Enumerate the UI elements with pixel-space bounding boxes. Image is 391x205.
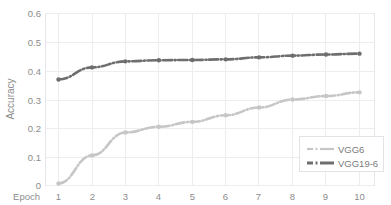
legend-label-vgg19-6: VGG19-6 bbox=[338, 158, 378, 169]
x-tick-label-4: 4 bbox=[156, 191, 161, 202]
x-tick-label-5: 5 bbox=[190, 191, 195, 202]
x-tick-label-3: 3 bbox=[123, 191, 128, 202]
y-tick-label-0.3: 0.3 bbox=[28, 95, 41, 106]
y-tick-label-0.4: 0.4 bbox=[28, 66, 41, 77]
x-tick-label-2: 2 bbox=[90, 191, 95, 202]
data-point bbox=[224, 57, 228, 61]
data-point bbox=[90, 65, 94, 69]
data-point bbox=[190, 120, 194, 124]
data-point bbox=[56, 181, 60, 185]
data-point bbox=[90, 153, 94, 157]
data-point bbox=[357, 90, 361, 94]
data-point bbox=[123, 130, 127, 134]
y-tick-label-0.2: 0.2 bbox=[28, 123, 41, 134]
data-point bbox=[290, 53, 294, 57]
data-point bbox=[157, 125, 161, 129]
data-point bbox=[224, 113, 228, 117]
series-vgg19-6 bbox=[56, 51, 361, 81]
x-axis-title: Epoch bbox=[13, 191, 40, 202]
x-tick-label-1: 1 bbox=[56, 191, 61, 202]
y-tick-label-0: 0 bbox=[36, 180, 41, 191]
chart-canvas: Accuracy 0.6 0.5 0.4 0.3 0.2 0.1 0 Epoch… bbox=[0, 0, 391, 205]
x-tick-label-9: 9 bbox=[323, 191, 328, 202]
data-point bbox=[324, 94, 328, 98]
legend: VGG6 VGG19-6 bbox=[300, 137, 384, 172]
accuracy-vs-epoch-chart: Accuracy 0.6 0.5 0.4 0.3 0.2 0.1 0 Epoch… bbox=[0, 0, 391, 205]
data-point bbox=[324, 52, 328, 56]
x-tick-label-6: 6 bbox=[223, 191, 228, 202]
x-tick-label-10: 10 bbox=[354, 191, 365, 202]
data-point bbox=[357, 51, 361, 55]
data-point bbox=[257, 55, 261, 59]
y-axis-title: Accuracy bbox=[5, 78, 16, 119]
data-point bbox=[56, 77, 60, 81]
x-tick-label-7: 7 bbox=[256, 191, 261, 202]
y-tick-label-0.5: 0.5 bbox=[28, 37, 41, 48]
data-point bbox=[257, 105, 261, 109]
y-axis-tick-labels: 0.6 0.5 0.4 0.3 0.2 0.1 0 bbox=[28, 8, 41, 191]
series-line-vgg19-6 bbox=[59, 54, 360, 80]
legend-label-vgg6: VGG6 bbox=[338, 144, 364, 155]
y-tick-label-0.6: 0.6 bbox=[28, 8, 41, 19]
data-point bbox=[290, 97, 294, 101]
x-tick-label-8: 8 bbox=[290, 191, 295, 202]
data-point bbox=[157, 58, 161, 62]
data-point bbox=[123, 59, 127, 63]
data-point bbox=[190, 58, 194, 62]
x-axis-tick-labels: 1 2 3 4 5 6 7 8 9 10 bbox=[56, 191, 365, 202]
y-tick-label-0.1: 0.1 bbox=[28, 152, 41, 163]
